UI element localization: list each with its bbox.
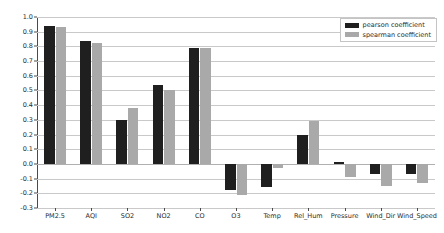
bar-pearson-pressure: [334, 162, 345, 163]
x-tick-label-co: CO: [195, 213, 205, 220]
x-tick-label-wind_dir: Wind_Dir: [366, 213, 395, 220]
y-tick-label: -0.3: [20, 205, 37, 212]
legend-item-spearman: spearman coefficient: [345, 32, 431, 39]
correlation-bar-chart: 1.00.90.80.70.60.50.40.30.20.10.0-0.1-0.…: [0, 0, 444, 233]
y-tick-label: 0.1: [23, 146, 37, 153]
y-tick-label: 0.7: [23, 58, 37, 65]
x-tick-label-pressure: Pressure: [331, 213, 359, 220]
legend-swatch-pearson: [345, 23, 359, 28]
bar-spearman-no2: [164, 90, 175, 163]
bar-pearson-aqi: [80, 41, 91, 164]
y-tick-label: 0.3: [23, 117, 37, 124]
bar-spearman-co: [200, 48, 211, 164]
x-tick-label-so2: SO2: [121, 213, 134, 220]
x-tick-label-aqi: AQI: [86, 213, 97, 220]
x-tick-mark: [164, 208, 165, 211]
bar-spearman-wind_dir: [381, 164, 392, 186]
chart-legend: pearson coefficientspearman coefficient: [340, 18, 437, 42]
y-tick-label: 0.5: [23, 87, 37, 94]
x-tick-mark: [272, 208, 273, 211]
y-tick-label: 0.0: [23, 161, 37, 168]
legend-label-pearson: pearson coefficient: [363, 22, 425, 29]
bar-spearman-rel_hum: [309, 121, 320, 164]
x-tick-label-o3: O3: [231, 213, 240, 220]
y-tick-label: 1.0: [23, 14, 37, 21]
y-tick-label: 0.4: [23, 102, 37, 109]
bar-spearman-wind_speed: [417, 164, 428, 183]
bar-pearson-wind_dir: [370, 164, 381, 174]
x-tick-mark: [381, 208, 382, 211]
plot-area: 1.00.90.80.70.60.50.40.30.20.10.0-0.1-0.…: [37, 17, 435, 208]
bar-pearson-o3: [225, 164, 236, 190]
bar-pearson-pm2.5: [44, 26, 55, 164]
legend-item-pearson: pearson coefficient: [345, 22, 431, 29]
bar-pearson-co: [189, 48, 200, 164]
y-tick-label: 0.2: [23, 131, 37, 138]
x-tick-mark: [127, 208, 128, 211]
y-tick-label: -0.2: [20, 190, 37, 197]
y-tick-label: -0.1: [20, 175, 37, 182]
bar-spearman-aqi: [92, 43, 103, 163]
bar-pearson-so2: [116, 120, 127, 164]
x-tick-mark: [91, 208, 92, 211]
bar-spearman-o3: [237, 164, 248, 195]
bar-pearson-wind_speed: [406, 164, 417, 174]
x-tick-label-pm2.5: PM2.5: [45, 213, 65, 220]
legend-label-spearman: spearman coefficient: [363, 32, 431, 39]
x-tick-label-rel_hum: Rel_Hum: [294, 213, 323, 220]
y-tick-label: 0.8: [23, 43, 37, 50]
x-tick-mark: [55, 208, 56, 211]
x-tick-mark: [308, 208, 309, 211]
x-tick-label-wind_speed: Wind_Speed: [397, 213, 437, 220]
bar-spearman-pressure: [345, 164, 356, 177]
bar-pearson-rel_hum: [297, 135, 308, 164]
x-tick-mark: [236, 208, 237, 211]
x-tick-label-no2: NO2: [157, 213, 171, 220]
x-tick-label-temp: Temp: [264, 213, 281, 220]
x-tick-mark: [200, 208, 201, 211]
legend-swatch-spearman: [345, 32, 359, 37]
bar-spearman-pm2.5: [56, 27, 67, 164]
bar-spearman-so2: [128, 108, 139, 164]
y-tick-label: 0.6: [23, 73, 37, 80]
x-tick-mark: [417, 208, 418, 211]
bar-pearson-no2: [153, 85, 164, 164]
bar-pearson-temp: [261, 164, 272, 188]
bar-spearman-temp: [273, 164, 284, 168]
x-tick-mark: [345, 208, 346, 211]
y-tick-label: 0.9: [23, 28, 37, 35]
